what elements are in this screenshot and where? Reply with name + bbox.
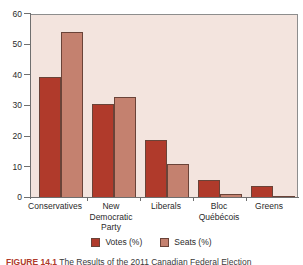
y-tick-label-60: 60 [0,10,22,19]
bar-seats-conservatives [61,32,83,198]
x-category-line: Greens [238,201,300,212]
y-axis-line [30,13,31,199]
x-category-line: Party [72,222,150,233]
chart-legend: Votes (%) Seats (%) [0,238,303,247]
bar-votes-bloc-quebecois [198,180,220,198]
x-axis-line [29,197,299,198]
bar-votes-conservatives [39,77,61,198]
bar-seats-liberals [167,164,189,198]
x-category-line: Democratic [72,212,150,223]
legend-item-seats: Seats (%) [160,238,211,247]
y-tick-label-50: 50 [0,40,22,49]
figure-caption: FIGURE 14.1 The Results of the 2011 Cana… [6,257,297,265]
y-tick-label-10: 10 [0,163,22,172]
x-category-label-greens: Greens [238,201,300,212]
y-tick-label-30: 30 [0,101,22,110]
legend-swatch-seats-icon [160,238,169,247]
bar-votes-liberals [145,140,167,198]
legend-swatch-votes-icon [91,238,100,247]
figure-container: 60 50 40 30 20 10 0 [0,0,303,265]
bar-seats-new-democratic-party [114,97,136,199]
figure-number: FIGURE 14.1 [6,257,57,265]
y-axis-labels: 60 50 40 30 20 10 0 [0,0,22,198]
y-tick-label-40: 40 [0,71,22,80]
figure-caption-text: The Results of the 2011 Canadian Federal… [59,257,251,265]
bar-votes-new-democratic-party [92,104,114,198]
legend-label-seats: Seats (%) [174,238,211,247]
y-tick-label-20: 20 [0,132,22,141]
legend-label-votes: Votes (%) [105,238,142,247]
x-category-line: Québécois [183,212,255,223]
legend-item-votes: Votes (%) [91,238,142,247]
plot-area [30,14,298,198]
